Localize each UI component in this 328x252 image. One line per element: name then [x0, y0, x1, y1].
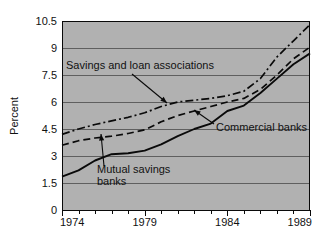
y-axis-tick-label: 3: [51, 150, 57, 162]
y-axis-tick-label: 7.5: [42, 69, 57, 81]
y-axis-title: Percent: [8, 97, 20, 135]
chart-canvas: 01.534.567.5910.5 1974197919841989 Perce…: [0, 0, 328, 252]
x-axis-tick-label: 1979: [132, 216, 156, 228]
commercial-banks-annotation-label: Commercial banks: [216, 121, 308, 133]
chart-figure: 01.534.567.5910.5 1974197919841989 Perce…: [0, 0, 328, 252]
y-axis-tick-label: 4.5: [42, 123, 57, 135]
savings-and-loan-annotation-label: Savings and loan associations: [66, 59, 214, 71]
x-axis-tick-label: 1984: [215, 216, 239, 228]
y-axis-tick-label: 9: [51, 42, 57, 54]
mutual-savings-banks-annotation-label-line2: banks: [97, 175, 127, 187]
y-axis-tick-label: 1.5: [42, 177, 57, 189]
y-axis-tick-label: 6: [51, 96, 57, 108]
x-axis-tick-label: 1974: [60, 216, 84, 228]
mutual-savings-banks-annotation-label: Mutual savings: [97, 163, 171, 175]
y-axis-tick-label: 10.5: [36, 15, 57, 27]
y-axis-tick-label: 0: [51, 204, 57, 216]
x-axis-tick-label: 1989: [288, 216, 312, 228]
